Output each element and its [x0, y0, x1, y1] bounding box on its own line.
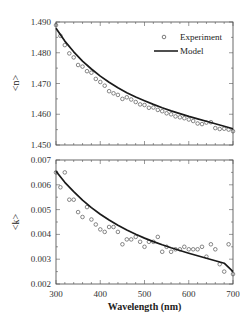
experiment-point — [129, 238, 133, 242]
experiment-point — [187, 118, 191, 122]
experiment-point — [68, 198, 72, 202]
xtick-3: 600 — [182, 289, 196, 299]
experiment-point — [156, 235, 160, 239]
chart-figure: 1.490 1.480 1.470 1.460 1.450 <n> Experi… — [0, 0, 249, 325]
experiment-point — [152, 106, 156, 110]
experiment-point — [121, 243, 125, 247]
experiment-point — [94, 223, 98, 227]
experiment-point — [125, 238, 129, 242]
experiment-point — [187, 248, 191, 252]
experiment-point — [214, 126, 218, 130]
bottom-plot-frame — [56, 160, 233, 284]
experiment-point — [125, 96, 129, 100]
xtick-0: 300 — [49, 289, 63, 299]
model-curve — [56, 28, 233, 129]
bottom-plot-ticks — [56, 160, 233, 284]
experiment-point — [76, 63, 80, 67]
experiment-point — [222, 270, 226, 274]
experiment-point — [138, 240, 142, 244]
bottom-ytick-0: 0.007 — [31, 155, 52, 165]
experiment-point — [72, 198, 76, 202]
experiment-point — [103, 84, 107, 88]
experiment-point — [63, 171, 67, 175]
experiment-point — [209, 243, 213, 247]
experiment-point — [112, 225, 116, 229]
top-y-axis-label: <n> — [10, 75, 21, 92]
experiment-point — [107, 89, 111, 93]
experiment-point — [143, 103, 147, 107]
bottom-plot-series — [54, 171, 235, 276]
experiment-point — [134, 100, 138, 104]
experiment-point — [81, 215, 85, 219]
experiment-point — [94, 77, 98, 81]
experiment-point — [183, 116, 187, 120]
experiment-point — [116, 93, 120, 97]
top-y-tick-labels: 1.490 1.480 1.470 1.460 1.450 — [31, 17, 52, 150]
experiment-point — [196, 122, 200, 126]
x-axis-label: Wavelength (nm) — [108, 301, 182, 313]
x-tick-labels: 300 400 500 600 700 — [49, 289, 240, 299]
legend-experiment-label: Experiment — [180, 32, 222, 42]
experiment-point — [200, 122, 204, 126]
experiment-point — [169, 113, 173, 117]
experiment-point — [121, 97, 125, 101]
experiment-point — [227, 243, 231, 247]
experiment-point — [178, 116, 182, 120]
bottom-y-tick-labels: 0.007 0.006 0.005 0.004 0.003 0.002 — [31, 155, 52, 289]
top-ytick-1: 1.480 — [31, 48, 52, 58]
experiment-point — [129, 98, 133, 102]
model-curve — [56, 171, 233, 271]
experiment-point — [138, 103, 142, 107]
bottom-ytick-3: 0.004 — [31, 229, 52, 239]
experiment-point — [112, 92, 116, 96]
experiment-point — [99, 80, 103, 84]
experiment-point — [200, 245, 204, 249]
experiment-point — [156, 108, 160, 112]
experiment-point — [143, 245, 147, 249]
experiment-point — [147, 106, 151, 110]
experiment-point — [196, 248, 200, 252]
bottom-ytick-2: 0.005 — [31, 205, 52, 215]
experiment-point — [72, 56, 76, 60]
top-ytick-4: 1.450 — [31, 140, 52, 150]
experiment-point — [165, 112, 169, 116]
bottom-y-axis-label: <k> — [10, 214, 21, 231]
experiment-point — [160, 109, 164, 113]
bottom-ytick-1: 0.006 — [31, 180, 52, 190]
experiment-point — [68, 52, 72, 56]
experiment-point — [183, 245, 187, 249]
experiment-point — [116, 230, 120, 234]
xtick-1: 400 — [94, 289, 108, 299]
experiment-point — [191, 119, 195, 123]
xtick-4: 700 — [226, 289, 240, 299]
experiment-point — [90, 218, 94, 222]
experiment-point — [81, 65, 85, 69]
experiment-point — [59, 186, 63, 190]
experiment-point — [103, 230, 107, 234]
experiment-point — [218, 127, 222, 131]
bottom-ytick-4: 0.003 — [31, 254, 52, 264]
experiment-point — [191, 248, 195, 252]
experiment-point — [76, 210, 80, 214]
experiment-point — [214, 248, 218, 252]
bottom-ytick-5: 0.002 — [31, 279, 51, 289]
experiment-point — [90, 71, 94, 75]
top-ytick-3: 1.460 — [31, 109, 52, 119]
experiment-point — [99, 228, 103, 232]
legend-model-label: Model — [180, 46, 204, 56]
experiment-point — [107, 225, 111, 229]
legend-experiment-marker — [162, 35, 166, 39]
top-ytick-2: 1.470 — [31, 79, 52, 89]
experiment-point — [174, 115, 178, 119]
experiment-point — [85, 69, 89, 73]
legend: Experiment Model — [154, 32, 222, 56]
experiment-point — [160, 250, 164, 254]
experiment-point — [169, 250, 173, 254]
top-ytick-0: 1.490 — [31, 17, 52, 27]
xtick-2: 500 — [138, 289, 152, 299]
